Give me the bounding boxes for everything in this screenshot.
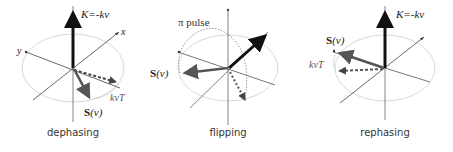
x-axis [33,32,119,100]
s-label: S(v) [84,106,103,119]
spin-echo-diagram: K=-kv x y kvT S(v) dephasing π pulse S(v… [0,0,453,152]
y-axis-dot [333,50,335,52]
s-vector [185,68,228,73]
s-label: S(v) [326,34,345,47]
caption-rephasing: rephasing [360,127,410,138]
y-axis-dot [25,51,27,53]
s-vector [340,53,384,68]
dashed-vector [230,72,245,100]
k-vector [229,36,265,68]
s-label: S(v) [150,67,169,80]
caption-dephasing: dephasing [47,127,99,138]
panel-dephasing: K=-kv x y kvT S(v) dephasing [16,6,126,138]
panel-flipping: π pulse S(v) flipping [150,10,278,138]
x-axis-label: x [120,26,126,37]
pi-pulse-label: π pulse [178,16,210,28]
y-axis-dot [178,51,181,54]
caption-flipping: flipping [209,127,246,138]
phase-label: kvT [110,92,126,103]
panel-rephasing: K=-kv S(v) kvT rephasing [309,6,435,138]
phase-label: kvT [309,59,325,70]
k-label: K=-kv [80,8,109,20]
dashed-vector [339,69,383,71]
k-label: K=-kv [395,8,424,20]
y-axis-label: y [16,45,22,56]
